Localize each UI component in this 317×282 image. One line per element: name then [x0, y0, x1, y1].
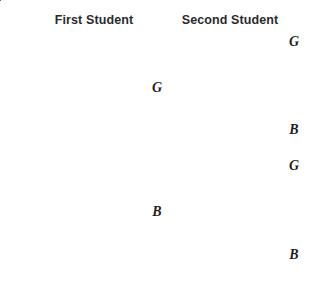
node-first-student-boy: B: [149, 204, 165, 220]
node-second-student-boy-after-boy: B: [286, 247, 302, 263]
node-second-student-boy-after-girl: B: [286, 122, 302, 138]
node-first-student-girl: G: [149, 80, 165, 96]
tree-branch-lines: [0, 0, 317, 282]
node-second-student-girl-after-girl: G: [286, 34, 302, 50]
node-second-student-girl-after-boy: G: [286, 158, 302, 174]
probability-tree-diagram: First Student Second Student G B G B G B: [0, 0, 317, 282]
